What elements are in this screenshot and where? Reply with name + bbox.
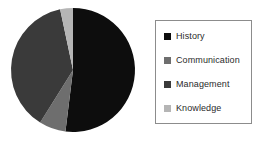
legend-swatch-icon bbox=[164, 57, 171, 64]
pie-chart-figure: HistoryCommunicationManagementKnowledge bbox=[0, 0, 265, 141]
chart-legend: HistoryCommunicationManagementKnowledge bbox=[155, 20, 252, 124]
pie-slice-history[interactable] bbox=[65, 8, 135, 132]
legend-item-label: Communication bbox=[176, 56, 240, 65]
legend-item-label: History bbox=[176, 32, 205, 41]
legend-item-label: Knowledge bbox=[176, 104, 221, 113]
legend-item-history[interactable]: History bbox=[164, 24, 251, 48]
pie-chart bbox=[0, 0, 150, 141]
legend-swatch-icon bbox=[164, 105, 171, 112]
pie-slice-group bbox=[11, 8, 135, 132]
legend-item-label: Management bbox=[176, 80, 230, 89]
legend-item-knowledge[interactable]: Knowledge bbox=[164, 96, 251, 120]
legend-swatch-icon bbox=[164, 33, 171, 40]
legend-item-communication[interactable]: Communication bbox=[164, 48, 251, 72]
legend-swatch-icon bbox=[164, 81, 171, 88]
legend-item-management[interactable]: Management bbox=[164, 72, 251, 96]
